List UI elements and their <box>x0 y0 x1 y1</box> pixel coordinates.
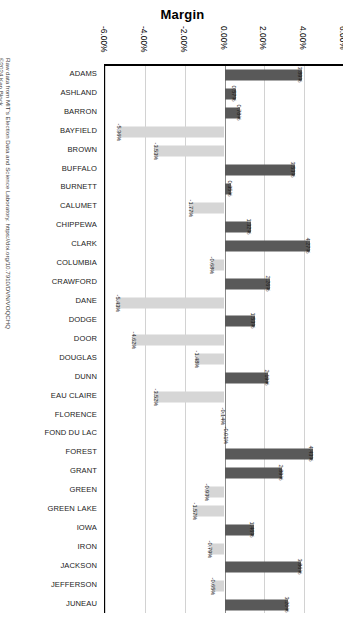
category-label-columbia: COLUMBIA <box>22 253 102 272</box>
bar-row: -0.14% <box>105 407 343 426</box>
value-label-columbia: -0.68% <box>210 256 216 274</box>
value-label-burnett: 0.35% <box>227 181 233 197</box>
bar-row: 1.32% <box>105 217 343 236</box>
bar-row: 1.46% <box>105 520 343 539</box>
attribution-block: Raw data from MIT's Election Data and Sc… <box>0 0 18 621</box>
category-label-crawford: CRAWFORD <box>22 272 102 291</box>
value-label-jackson: 3.86% <box>297 559 303 575</box>
category-label-jefferson: JEFFERSON <box>22 575 102 594</box>
category-label-barron: BARRON <box>22 102 102 121</box>
x-tick-label: -2.00% <box>178 26 188 53</box>
value-label-calumet: -1.77% <box>188 199 194 217</box>
category-label-door: DOOR <box>22 329 102 348</box>
value-label-green: -0.93% <box>205 483 211 501</box>
bar-row: -5.36% <box>105 123 343 142</box>
category-label-iron: IRON <box>22 537 102 556</box>
bar-row: -5.43% <box>105 293 343 312</box>
x-tick-label: -6.00% <box>99 26 109 53</box>
category-label-douglas: DOUGLAS <box>22 348 102 367</box>
bar-forest <box>225 448 313 459</box>
category-label-grant: GRANT <box>22 461 102 480</box>
bar-eau-claire <box>154 392 224 403</box>
bar-row: 3.53% <box>105 161 343 180</box>
category-label-eau-claire: EAU CLAIRE <box>22 386 102 405</box>
category-label-fond-du-lac: FOND DU LAC <box>22 424 102 443</box>
bar-row: 2.26% <box>105 274 343 293</box>
x-tick-label: 4.00% <box>298 26 308 50</box>
value-label-door: -4.62% <box>131 332 137 350</box>
category-label-adams: ADAMS <box>22 64 102 83</box>
bar-row: 3.89% <box>105 66 343 85</box>
category-label-chippewa: CHIPPEWA <box>22 215 102 234</box>
bar-row: 2.89% <box>105 463 343 482</box>
category-axis-labels: ADAMSASHLANDBARRONBAYFIELDBROWNBUFFALOBU… <box>22 64 102 613</box>
value-label-dunn: 2.19% <box>264 370 270 386</box>
x-tick-label: 6.00% <box>338 26 343 50</box>
bar-door <box>132 335 224 346</box>
bar-row: -0.93% <box>105 482 343 501</box>
category-label-ashland: ASHLAND <box>22 83 102 102</box>
value-label-buffalo: 3.53% <box>290 162 296 178</box>
bar-juneau <box>225 600 289 611</box>
category-label-calumet: CALUMET <box>22 196 102 215</box>
value-label-chippewa: 1.32% <box>246 218 252 234</box>
plot-area: 3.89%0.57%0.78%-5.36%-3.53%3.53%0.35%-1.… <box>104 64 343 613</box>
value-label-bayfield: -5.36% <box>116 124 122 142</box>
bar-adams <box>225 70 302 81</box>
bar-dane <box>116 297 224 308</box>
value-label-grant: 2.89% <box>278 464 284 480</box>
attribution-copyright: ©2024 Ken Block <box>0 58 5 106</box>
value-label-adams: 3.89% <box>297 67 303 83</box>
chart-title: Margin <box>22 7 343 22</box>
value-label-green-lake: -1.57% <box>192 502 198 520</box>
bar-row: 1.53% <box>105 312 343 331</box>
bar-row: -1.77% <box>105 198 343 217</box>
margin-bar-chart: Margin -6.00%-4.00%-2.00%0.00%2.00%4.00%… <box>22 0 343 621</box>
bar-row: 4.43% <box>105 444 343 463</box>
bar-row: 0.35% <box>105 180 343 199</box>
category-label-forest: FOREST <box>22 442 102 461</box>
x-axis-tick-labels: -6.00%-4.00%-2.00%0.00%2.00%4.00%6.00% <box>104 26 343 66</box>
value-label-juneau: 3.20% <box>284 597 290 613</box>
category-label-jackson: JACKSON <box>22 556 102 575</box>
attribution-source: Raw data from MIT's Election Data and Sc… <box>4 58 12 329</box>
bar-row: -3.52% <box>105 388 343 407</box>
value-label-barron: 0.78% <box>236 105 242 121</box>
bar-row: 4.27% <box>105 236 343 255</box>
value-label-brown: -3.53% <box>153 143 159 161</box>
bar-row: 0.57% <box>105 85 343 104</box>
category-label-green: GREEN <box>22 480 102 499</box>
category-label-dunn: DUNN <box>22 367 102 386</box>
bar-row: -3.53% <box>105 142 343 161</box>
value-label-dane: -5.43% <box>115 294 121 312</box>
value-label-ashland: 0.57% <box>231 86 237 102</box>
category-label-dodge: DODGE <box>22 310 102 329</box>
bar-buffalo <box>225 165 295 176</box>
bar-row: -0.65% <box>105 577 343 596</box>
category-label-dane: DANE <box>22 291 102 310</box>
value-label-clark: 4.27% <box>305 237 311 253</box>
bar-brown <box>154 146 224 157</box>
category-label-burnett: BURNETT <box>22 178 102 197</box>
bar-calumet <box>189 202 224 213</box>
bar-clark <box>225 240 310 251</box>
category-label-iowa: IOWA <box>22 518 102 537</box>
value-label-crawford: 2.26% <box>265 275 271 291</box>
category-label-green-lake: GREEN LAKE <box>22 499 102 518</box>
bar-grant <box>225 467 283 478</box>
bar-row: -0.68% <box>105 255 343 274</box>
category-label-buffalo: BUFFALO <box>22 159 102 178</box>
value-label-iron: -0.79% <box>207 540 213 558</box>
x-tick-label: -4.00% <box>138 26 148 53</box>
category-label-bayfield: BAYFIELD <box>22 121 102 140</box>
bar-dunn <box>225 373 269 384</box>
value-label-dodge: 1.53% <box>250 313 256 329</box>
bar-row: 2.19% <box>105 369 343 388</box>
bar-row: 3.86% <box>105 558 343 577</box>
bar-bayfield <box>118 127 225 138</box>
category-label-juneau: JUNEAU <box>22 594 102 613</box>
bar-jackson <box>225 562 302 573</box>
x-tick-label: 2.00% <box>258 26 268 50</box>
value-label-eau-claire: -3.52% <box>153 389 159 407</box>
category-label-brown: BROWN <box>22 140 102 159</box>
